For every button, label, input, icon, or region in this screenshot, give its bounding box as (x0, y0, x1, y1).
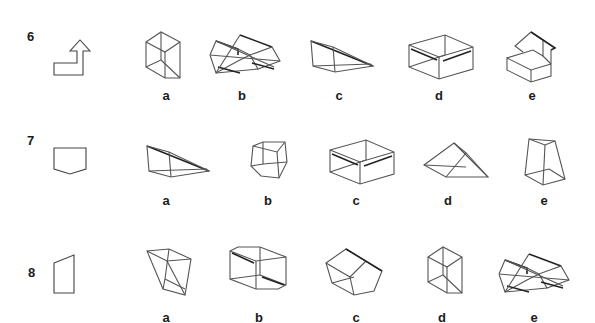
rounded-box-icon (407, 33, 475, 81)
option-label-8d[interactable]: d (432, 310, 452, 323)
pentagon-net-icon (53, 147, 89, 177)
arrow-net-icon (52, 38, 102, 78)
pentagonal-prism-icon (249, 140, 289, 180)
rectangular-prism-icon (143, 32, 183, 82)
wedge-prism-icon (145, 144, 215, 179)
option-label-6e[interactable]: e (522, 88, 542, 103)
option-label-6b[interactable]: b (232, 88, 252, 103)
rectangular-prism-icon (425, 247, 465, 297)
option-label-8c[interactable]: c (346, 310, 366, 323)
pentagonal-prism-tilted-icon (324, 247, 386, 297)
wedge-prism-icon (309, 39, 379, 74)
question-number-7: 7 (27, 133, 34, 148)
triangular-prism-icon (422, 141, 490, 181)
house-step-prism-icon (505, 30, 565, 82)
question-number-6: 6 (27, 29, 34, 44)
option-label-7a[interactable]: a (156, 193, 176, 208)
octagonal-prism-icon (228, 245, 288, 300)
trapezoid-prism-icon (523, 137, 567, 187)
option-label-6a[interactable]: a (156, 88, 176, 103)
question-number-8: 8 (28, 265, 35, 280)
double-hexagonal-prism-icon (208, 35, 283, 77)
double-hexagonal-prism-icon (497, 254, 572, 296)
option-label-7e[interactable]: e (534, 193, 554, 208)
option-label-8b[interactable]: b (249, 310, 269, 323)
rounded-box-icon (328, 138, 396, 186)
option-label-8e[interactable]: e (524, 310, 544, 323)
option-label-6d[interactable]: d (429, 88, 449, 103)
option-label-8a[interactable]: a (156, 310, 176, 323)
trapezoid-net-icon (53, 254, 77, 296)
option-label-7b[interactable]: b (258, 193, 278, 208)
option-label-7d[interactable]: d (438, 193, 458, 208)
option-label-6c[interactable]: c (329, 88, 349, 103)
trapezoid-prism-icon (145, 247, 193, 297)
option-label-7c[interactable]: c (346, 193, 366, 208)
